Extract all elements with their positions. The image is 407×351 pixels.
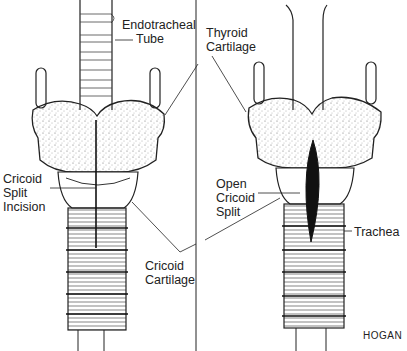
label-trachea: Trachea: [354, 225, 399, 239]
label-thyroid-cartilage: Thyroid Cartilage: [206, 26, 256, 54]
thyroid-cartilage-left: [32, 101, 164, 173]
cricoid-cartilage-left: [58, 172, 138, 208]
right-larynx-illustration: [248, 5, 381, 351]
label-cricoid-split-incision: Cricoid Split Incision: [3, 172, 45, 214]
label-endotracheal-tube: Endotracheal Tube: [122, 18, 196, 46]
artist-signature: HOGAN: [363, 330, 402, 341]
trachea-left: [66, 208, 128, 351]
label-open-cricoid-split: Open Cricoid Split: [216, 177, 255, 219]
cricoid-split-diagram: [0, 0, 407, 351]
endotracheal-tube: [80, 0, 114, 110]
label-cricoid-cartilage: Cricoid Cartilage: [145, 259, 195, 287]
left-larynx-illustration: [32, 0, 164, 351]
